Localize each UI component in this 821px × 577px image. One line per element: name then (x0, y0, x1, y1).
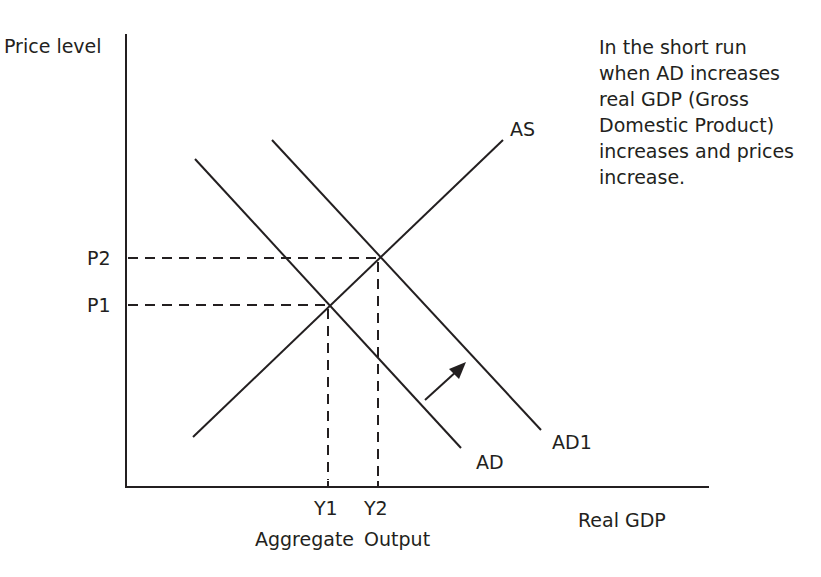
note-line: increases and prices (599, 138, 819, 164)
ad1-curve (272, 140, 541, 430)
as-curve-label: AS (510, 120, 535, 139)
x-sub-aggregate: Aggregate (255, 528, 354, 550)
y2-tick-label: Y2 (364, 499, 388, 518)
note-line: increase. (599, 164, 819, 190)
note-line: Domestic Product) (599, 112, 819, 138)
explanatory-note: In the short run when AD increases real … (599, 34, 819, 190)
note-line: In the short run (599, 34, 819, 60)
note-line: real GDP (Gross (599, 86, 819, 112)
x-axis-sublabel: Aggregate Output (255, 530, 430, 549)
as-curve (193, 140, 503, 437)
x-axis-label: Real GDP (578, 511, 666, 530)
y-axis-label: Price level (4, 37, 102, 56)
p2-tick-label: P2 (87, 249, 111, 268)
ad-curve-label: AD (476, 453, 504, 472)
y1-tick-label: Y1 (314, 499, 338, 518)
note-line: when AD increases (599, 60, 819, 86)
p1-tick-label: P1 (87, 296, 111, 315)
x-sub-output: Output (364, 528, 430, 550)
ad-curve (195, 159, 461, 448)
ad1-curve-label: AD1 (552, 433, 592, 452)
shift-arrow-shaft (425, 370, 458, 400)
